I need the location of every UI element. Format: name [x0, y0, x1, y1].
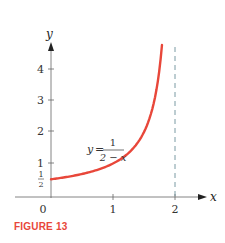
x-tick-0: 0: [40, 203, 47, 216]
x-tick-labels: 0 1 2: [40, 203, 179, 216]
y-tick-labels: 4 3 2 1: [37, 63, 44, 170]
svg-text:2: 2: [38, 180, 43, 189]
y-tick-half: 1 2: [38, 170, 44, 189]
chart: y x 4 3 2 1 1 2 0 1 2 y = 1 2 − x: [0, 0, 225, 243]
y-axis-arrow-icon: [48, 42, 54, 51]
y-tick-4: 4: [37, 63, 44, 76]
x-tick-2: 2: [172, 203, 179, 216]
y-tick-1: 1: [37, 157, 44, 170]
y-tick-2: 2: [37, 125, 44, 138]
x-axis-label: x: [210, 190, 217, 204]
equation-numerator: 1: [110, 137, 116, 148]
equation-denominator: 2 − x: [99, 152, 127, 163]
x-axis-arrow-icon: [198, 194, 207, 200]
svg-text:1: 1: [38, 170, 43, 179]
y-axis-label: y: [45, 27, 53, 41]
figure-caption: FIGURE 13: [14, 221, 67, 232]
x-tick-1: 1: [110, 203, 117, 216]
svg-text:y: y: [86, 143, 94, 156]
equation-label: y = 1 2 − x: [86, 137, 127, 163]
y-tick-3: 3: [37, 94, 44, 107]
